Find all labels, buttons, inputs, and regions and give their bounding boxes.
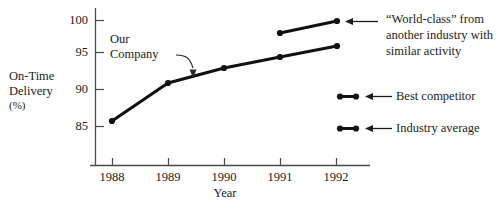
y-axis-title-line2: Delivery: [9, 84, 73, 99]
chart-figure: 100 95 90 85 On-Time Delivery (%) 1988 1…: [0, 0, 496, 203]
data-point-1989: [165, 80, 171, 86]
x-tick-label-1990: 1990: [201, 170, 247, 185]
our-company-leader-curve: [176, 55, 193, 68]
y-tick-label-95: 95: [54, 45, 88, 60]
y-tick-label-100: 100: [54, 13, 88, 28]
data-point-1990: [221, 65, 227, 71]
axis-lines: [90, 8, 370, 166]
data-point-industry-1992: [334, 18, 340, 24]
series-industry-average-line: [280, 21, 337, 33]
y-axis-ticks: [96, 21, 105, 127]
x-tick-label-1991: 1991: [257, 170, 303, 185]
data-point-1988: [109, 118, 115, 124]
data-point-industry-1991: [277, 30, 283, 36]
legend-label-best-competitor: Best competitor: [396, 89, 476, 104]
data-point-1991: [277, 54, 283, 60]
legend-label-industry-average: Industry average: [396, 121, 480, 136]
our-company-leader: [176, 55, 197, 78]
annotation-our-company-line1: Our: [110, 32, 129, 47]
y-axis-title-line1: On-Time: [9, 69, 73, 84]
x-axis-ticks: [113, 158, 337, 166]
x-axis-title: Year: [195, 186, 255, 201]
series-industry-average: [277, 18, 340, 36]
x-tick-label-1989: 1989: [145, 170, 191, 185]
annotation-our-company-line2: Company: [110, 47, 159, 62]
annotation-world-class-line3: similar activity: [386, 44, 461, 59]
world-class-arrow: [345, 18, 378, 25]
annotation-world-class-line1: “World-class” from: [386, 12, 484, 27]
legend-marker-industry-average: [337, 125, 392, 132]
annotation-world-class-line2: another industry with: [386, 28, 493, 43]
x-tick-label-1992: 1992: [313, 170, 359, 185]
y-axis-title-line3: (%): [9, 99, 73, 112]
y-tick-label-85: 85: [54, 119, 88, 134]
legend-marker-best-competitor: [337, 93, 392, 100]
x-tick-label-1988: 1988: [89, 170, 135, 185]
data-point-1992: [334, 43, 340, 49]
